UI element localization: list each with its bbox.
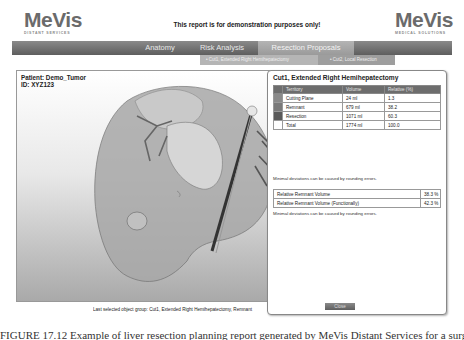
color-swatch	[274, 103, 283, 112]
patient-info: Patient: Demo_Tumor ID: XYZ123	[21, 74, 86, 88]
color-swatch	[274, 121, 283, 130]
figure-caption: FIGURE 17.12 Example of liver resection …	[0, 329, 464, 340]
volume-panel: Cut1, Extended Right Hemihepatectomy Ter…	[267, 70, 447, 315]
close-button[interactable]: Close	[325, 303, 355, 310]
report-header: MeVis DISTANT SERVICES This report is fo…	[0, 0, 464, 42]
table-row: Total 1774 ml 100.0	[274, 121, 441, 130]
table-header: Territory Volume Relative (%)	[274, 86, 441, 94]
rounding-note: Minimal deviations can be caused by roun…	[273, 211, 377, 216]
patient-name: Patient: Demo_Tumor	[21, 74, 86, 81]
subtab-cut1[interactable]: • Cut1, Extended Right Hemihepatectomy	[200, 55, 318, 65]
table-row: Remnant 679 ml 38.2	[274, 103, 441, 112]
tab-risk-analysis[interactable]: Risk Analysis	[192, 41, 252, 55]
tab-anatomy[interactable]: Anatomy	[130, 41, 190, 55]
panel-title: Cut1, Extended Right Hemihepatectomy	[273, 74, 398, 81]
rounding-note: Minimal deviations can be caused by roun…	[273, 176, 377, 181]
header-relative: Relative (%)	[385, 86, 441, 94]
table-row: Relative Remnant Volume 38.3 %	[274, 190, 441, 199]
header-territory: Territory	[283, 86, 343, 94]
main-nav: Anatomy Risk Analysis Resection Proposal…	[12, 41, 452, 55]
table-row: Resection 1071 ml 60.3	[274, 112, 441, 121]
table-row: Cutting Plane 24 ml 1.3	[274, 94, 441, 103]
volume-table: Territory Volume Relative (%) Cutting Pl…	[273, 85, 441, 130]
tab-resection-proposals[interactable]: Resection Proposals	[258, 41, 354, 55]
status-line: Last selected object group: Cut1, Extend…	[93, 307, 263, 312]
table-row: Relative Remnant Volume (Functionally) 4…	[274, 199, 441, 208]
relative-volume-table: Relative Remnant Volume 38.3 % Relative …	[273, 189, 441, 208]
liver-3d-render	[17, 71, 274, 302]
patient-id: ID: XYZ123	[21, 81, 86, 88]
subtab-cut2[interactable]: • Cut2, Local Resection	[324, 55, 395, 65]
sub-nav: • Cut1, Extended Right Hemihepatectomy •…	[200, 55, 395, 65]
color-swatch	[274, 94, 283, 103]
color-swatch	[274, 112, 283, 121]
header-volume: Volume	[343, 86, 385, 94]
swatch-header	[274, 86, 283, 94]
3d-viewer[interactable]: Patient: Demo_Tumor ID: XYZ123	[16, 70, 274, 302]
mevis-logo-right: MeVis MEDICAL SOLUTIONS	[395, 10, 453, 35]
